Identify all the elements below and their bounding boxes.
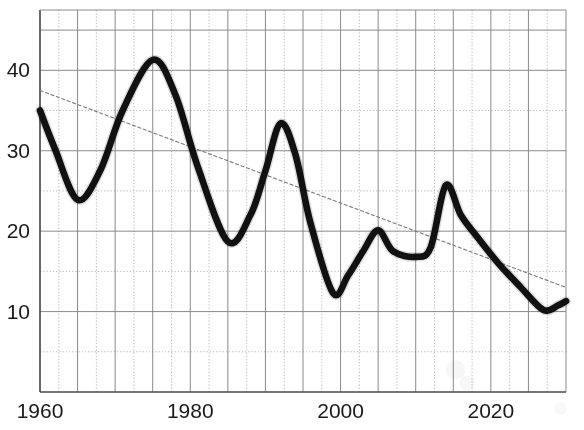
- y-tick-label: 40: [7, 58, 30, 81]
- x-tick-label: 1960: [17, 399, 64, 422]
- x-tick-label: 2000: [317, 399, 364, 422]
- y-tick-label: 30: [7, 139, 30, 162]
- line-chart-canvas: 10203040 1960198020002020: [0, 0, 584, 430]
- chart-background: [0, 0, 584, 430]
- x-tick-label: 2020: [467, 399, 514, 422]
- x-tick-label: 1980: [167, 399, 214, 422]
- y-tick-label: 20: [7, 219, 30, 242]
- y-tick-label: 10: [7, 300, 30, 323]
- chart-figure: 10203040 1960198020002020: [0, 0, 584, 430]
